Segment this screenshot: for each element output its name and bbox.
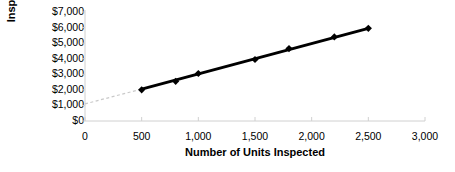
inspection-costs-chart: Inspection Costs $7,000$6,000$5,000$4,00… [0, 0, 455, 172]
data-markers [138, 25, 372, 94]
axes-lines [82, 10, 425, 121]
extrapolation-line [85, 89, 142, 104]
data-point-marker [365, 25, 372, 32]
plot-area [0, 0, 455, 172]
